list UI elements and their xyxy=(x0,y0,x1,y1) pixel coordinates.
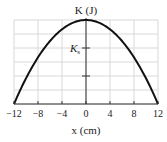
x-tick-label: 8 xyxy=(132,108,137,119)
y-ticks: Ks xyxy=(69,42,90,76)
kinetic-energy-chart: −12−8−404812 Ks K (J) x (cm) xyxy=(0,0,167,142)
x-tick-label: −12 xyxy=(6,108,22,119)
x-axis-title: x (cm) xyxy=(71,124,100,137)
x-tick-label: 4 xyxy=(108,108,113,119)
ks-label: Ks xyxy=(69,42,80,56)
x-tick-label: −4 xyxy=(57,108,68,119)
x-tick-label: 0 xyxy=(84,108,89,119)
y-axis-title: K (J) xyxy=(75,4,98,17)
x-tick-label: −8 xyxy=(33,108,44,119)
x-tick-label: 12 xyxy=(153,108,163,119)
